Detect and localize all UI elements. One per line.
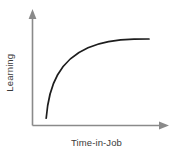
x-axis-arrowhead-icon (159, 122, 169, 130)
y-axis-arrowhead-icon (29, 9, 37, 19)
x-axis-label: Time-in-Job (0, 138, 177, 148)
learning-curve-figure: Learning Time-in-Job (0, 0, 177, 159)
chart-plot-area (0, 0, 177, 159)
learning-curve-line (46, 39, 149, 118)
y-axis-label: Learning (5, 45, 15, 101)
